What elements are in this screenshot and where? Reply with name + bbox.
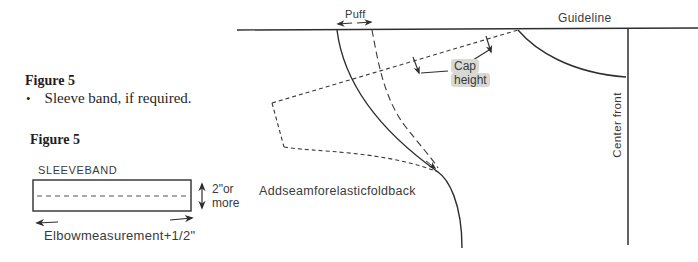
sleeve-pattern-diagram	[0, 0, 698, 262]
guideline-line	[237, 28, 698, 30]
cap-height-label: Cap height	[451, 59, 490, 87]
puff-label: Puff	[345, 8, 366, 20]
cap-height-label-line1: Cap	[451, 59, 479, 73]
back-sleeve-curve	[337, 30, 462, 248]
foldback-flap-bottom-dashed	[284, 147, 438, 172]
cap-height-leader-left	[421, 71, 448, 73]
band-width-arrow-right	[170, 218, 192, 220]
band-height-note-line1: 2"or	[212, 182, 239, 196]
figure-5-heading-band: Figure 5	[30, 132, 80, 148]
front-sleeve-curve	[518, 30, 626, 77]
band-width-arrow-left	[37, 222, 58, 223]
puff-overlay-dashed-curve	[372, 30, 438, 168]
puff-arrow-left	[338, 23, 352, 24]
scanned-pattern-page: Figure 5 • Sleeve band, if required. Fig…	[0, 0, 698, 262]
puff-arrow-right	[357, 22, 371, 23]
cap-height-label-line2: height	[451, 73, 490, 87]
center-front-label: Center front	[611, 92, 623, 158]
seam-note: Addseamforelasticfoldback	[259, 184, 416, 198]
bullet-glyph: •	[26, 91, 31, 106]
figure-5-heading-top: Figure 5	[25, 73, 75, 89]
sleeveband-label: SLEEVEBAND	[38, 164, 117, 176]
band-height-note-line2: more	[212, 196, 239, 210]
band-height-note: 2"or more	[212, 182, 239, 210]
bullet-item-text: Sleeve band, if required.	[45, 90, 192, 107]
cap-height-tick-left	[413, 57, 419, 73]
band-width-note: Elbowmeasurement+1/2"	[44, 228, 195, 243]
foldback-flap-left-dashed	[272, 103, 284, 147]
figure-5-bullet-row: • Sleeve band, if required.	[26, 90, 192, 107]
guideline-label: Guideline	[558, 11, 611, 25]
